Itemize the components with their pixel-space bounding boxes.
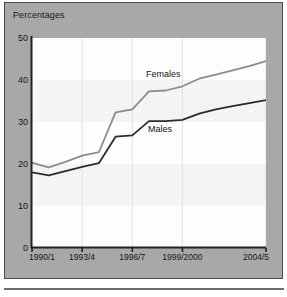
y-tick-label: 20 xyxy=(6,159,28,169)
y-tick-label: 0 xyxy=(6,243,28,253)
x-tick-label: 1993/4 xyxy=(69,252,95,262)
y-axis-tick-labels: 01020304050 xyxy=(2,38,28,248)
chart-figure: Percentages 01020304050 1990/11993/41996… xyxy=(0,0,287,297)
x-tick-label: 1999/2000 xyxy=(162,252,202,262)
y-tick-label: 30 xyxy=(6,117,28,127)
y-tick-label: 40 xyxy=(6,75,28,85)
series-label-males: Males xyxy=(148,124,172,134)
x-tick-label: 2004/5 xyxy=(243,252,269,262)
x-tick-label: 1996/7 xyxy=(119,252,145,262)
footer-rule xyxy=(4,288,284,290)
y-tick-label: 10 xyxy=(6,201,28,211)
y-tick-label: 50 xyxy=(6,33,28,43)
x-tick-label: 1990/1 xyxy=(29,252,55,262)
x-axis-tick-labels: 1990/11993/41996/71999/20002004/5 xyxy=(32,252,266,268)
series-label-females: Females xyxy=(146,69,181,79)
